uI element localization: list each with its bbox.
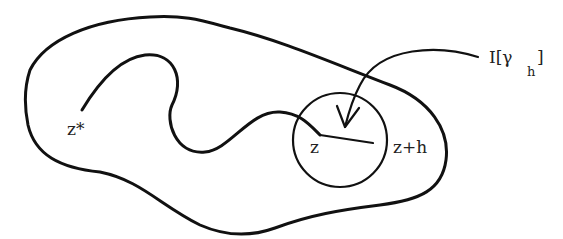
arrow-curve: [345, 50, 478, 127]
diagram-canvas: z* z z+h I[γ h ]: [0, 0, 563, 239]
label-integral-subscript: h: [527, 64, 536, 79]
disc-around-z: [293, 93, 387, 187]
segment-z-to-z-plus-h: [320, 135, 373, 143]
outer-region-boundary: [25, 17, 446, 235]
label-z: z: [310, 137, 319, 157]
label-z-star: z*: [67, 119, 85, 139]
label-integral-close: ]: [537, 47, 544, 67]
path-gamma: [82, 55, 320, 152]
label-integral: I[γ: [489, 47, 513, 67]
label-z-plus-h: z+h: [393, 137, 427, 157]
